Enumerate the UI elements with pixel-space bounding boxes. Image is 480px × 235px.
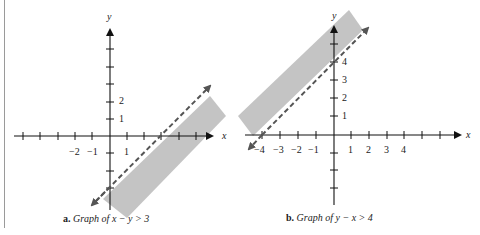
graph-b-ytick-3: 3 <box>342 74 347 85</box>
graph-b-x-label: x <box>465 129 471 140</box>
graph-b-xtick-neg2: −2 <box>291 144 302 155</box>
graph-a-xtick-1: 1 <box>124 146 129 157</box>
graph-a-caption-letter: a. <box>63 213 71 224</box>
graph-b-ytick-2: 2 <box>342 92 347 103</box>
graph-b-xtick-1: 1 <box>348 144 353 155</box>
graph-b-xtick-neg3: −3 <box>273 144 284 155</box>
graph-b-xtick-neg4: −4 <box>254 144 265 155</box>
graph-b-xtick-neg1: −1 <box>308 144 319 155</box>
graph-b-xtick-4: 4 <box>401 144 406 155</box>
graph-b-xtick-3: 3 <box>384 144 389 155</box>
graph-b: y x −4 −3 −2 −1 1 2 3 4 1 2 3 4 <box>238 10 471 205</box>
graph-a-caption-text: Graph of x − y > 3 <box>73 213 149 224</box>
graph-a-y-label: y <box>106 11 112 22</box>
graph-b-ytick-4: 4 <box>342 56 347 67</box>
graph-a-xtick-neg1: −1 <box>87 146 98 157</box>
graph-a-ytick-2: 2 <box>119 95 124 106</box>
graph-a-ytick-1: 1 <box>119 113 124 124</box>
graph-a-caption: a. Graph of x − y > 3 <box>63 213 149 224</box>
graph-a-xtick-neg2: −2 <box>69 146 80 157</box>
graph-b-y-label: y <box>331 10 337 21</box>
graph-b-caption-letter: b. <box>286 212 294 223</box>
graph-b-xtick-2: 2 <box>366 144 371 155</box>
graph-a-x-label: x <box>221 130 227 141</box>
graph-b-caption: b. Graph of y − x > 4 <box>286 212 373 223</box>
graph-b-ytick-1: 1 <box>342 110 347 121</box>
graphs-canvas: y x −2 −1 1 1 2 <box>0 0 480 235</box>
graph-a: y x −2 −1 1 1 2 <box>14 11 227 218</box>
graph-b-caption-text: Graph of y − x > 4 <box>297 212 373 223</box>
